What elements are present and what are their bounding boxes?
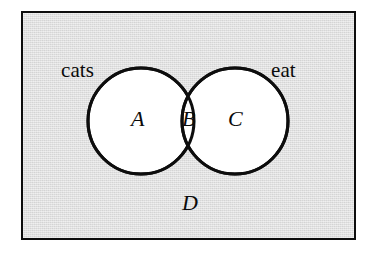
label-eat: eat bbox=[271, 60, 296, 81]
venn-diagram-figure: cats eat A B C D bbox=[0, 0, 377, 254]
label-cats: cats bbox=[61, 60, 94, 81]
label-region-d: D bbox=[182, 192, 198, 214]
label-region-a: A bbox=[131, 108, 144, 130]
label-region-c: C bbox=[228, 108, 243, 130]
label-region-b: B bbox=[182, 108, 195, 130]
